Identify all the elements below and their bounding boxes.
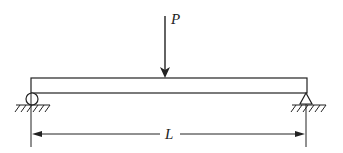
- beam-diagram: P L: [0, 0, 343, 153]
- pin-support-icon: [291, 93, 326, 112]
- load-arrow: [160, 16, 170, 78]
- beam: [31, 78, 307, 93]
- span-label: L: [164, 126, 173, 142]
- roller-support-icon: [15, 93, 50, 112]
- load-label: P: [170, 11, 180, 27]
